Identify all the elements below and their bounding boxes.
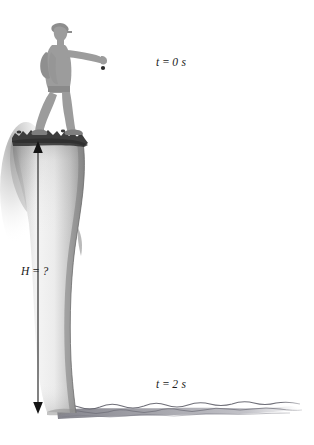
label-height-unknown: H = ? [21,265,48,277]
water-surface [57,398,314,428]
projectile-ball [101,66,105,70]
label-time-bottom: t = 2 s [156,378,186,390]
label-time-top: t = 0 s [156,56,186,68]
physics-diagram-canvas: t = 0 s t = 2 s H = ? [0,0,314,445]
person-silhouette [32,23,108,135]
